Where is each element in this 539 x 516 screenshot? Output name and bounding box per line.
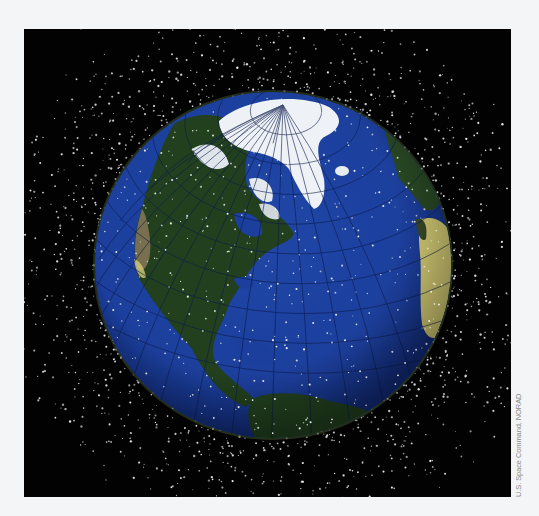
- debris-figure-frame: [24, 29, 511, 497]
- photo-credit: U.S. Space Command, NORAD: [514, 394, 523, 497]
- earth-globe: [24, 29, 511, 497]
- earth-debris-illustration: [24, 29, 511, 497]
